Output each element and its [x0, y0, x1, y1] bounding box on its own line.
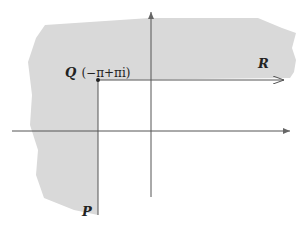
point-p-label: P [82, 205, 92, 218]
point-q-label: Q (−π+πi) [65, 64, 131, 80]
point-q-name: Q [65, 65, 76, 80]
point-q-coordinate: (−π+πi) [81, 66, 130, 80]
shaded-region [28, 18, 296, 215]
complex-plane-diagram [0, 0, 306, 235]
point-r-label: R [258, 57, 269, 70]
